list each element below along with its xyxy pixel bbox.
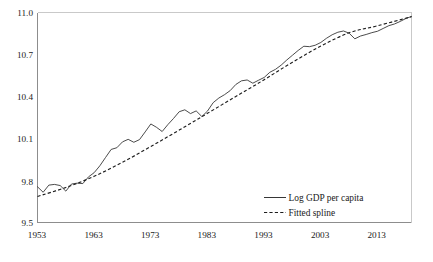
y-tick-label: 10.4 — [17, 92, 33, 102]
chart-canvas: 11.0 10.7 10.4 10.1 9.8 9.5 1953 1963 19… — [0, 0, 433, 262]
y-axis-tick-labels: 11.0 10.7 10.4 10.1 9.8 9.5 — [17, 8, 33, 228]
chart-figure: 11.0 10.7 10.4 10.1 9.8 9.5 1953 1963 19… — [0, 0, 433, 262]
x-tick-label: 1973 — [141, 230, 160, 240]
fitted-spline-series — [38, 17, 412, 197]
axis-frame — [38, 13, 412, 223]
y-tick-label: 9.8 — [22, 177, 34, 187]
legend-label-log-gdp: Log GDP per capita — [289, 193, 365, 203]
legend-label-fitted-spline: Fitted spline — [289, 208, 336, 218]
x-tick-label: 2013 — [368, 230, 387, 240]
y-tick-label: 10.7 — [17, 50, 33, 60]
x-tick-label: 1963 — [84, 230, 103, 240]
x-tick-label: 1953 — [28, 230, 47, 240]
x-tick-label: 1993 — [254, 230, 273, 240]
log-gdp-per-capita-series — [38, 16, 412, 192]
x-tick-label: 2003 — [311, 230, 330, 240]
y-tick-label: 10.1 — [17, 134, 33, 144]
x-tick-label: 1983 — [198, 230, 217, 240]
legend: Log GDP per capita Fitted spline — [264, 193, 364, 218]
x-axis-tick-labels: 1953 1963 1973 1983 1993 2003 2013 — [28, 230, 386, 240]
y-tick-label: 9.5 — [22, 218, 34, 228]
y-tick-label: 11.0 — [17, 8, 33, 18]
